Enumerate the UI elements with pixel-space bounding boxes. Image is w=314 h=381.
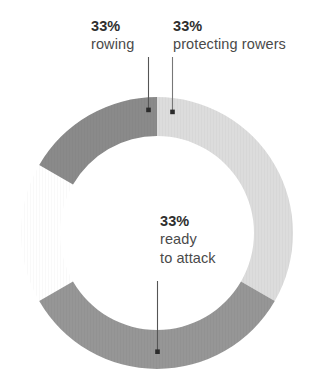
slice-label-ready-to-attack: 33% ready to attack xyxy=(160,212,216,267)
slice-label-rowing: 33% rowing xyxy=(91,17,134,54)
slice-label-ready-to-attack-line2: to attack xyxy=(160,249,216,267)
slice-label-rowing-percent: 33% xyxy=(91,17,134,35)
slice-label-protecting-rowers-text: protecting rowers xyxy=(173,35,286,53)
slice-label-ready-to-attack-percent: 33% xyxy=(160,212,216,230)
donut-chart-graphic xyxy=(0,0,314,381)
slice-label-protecting-rowers-percent: 33% xyxy=(173,17,286,35)
slice-label-rowing-text: rowing xyxy=(91,35,134,53)
donut-chart: 33% rowing 33% protecting rowers 33% rea… xyxy=(0,0,314,381)
slice-label-ready-to-attack-line1: ready xyxy=(160,230,216,248)
slice-label-protecting-rowers: 33% protecting rowers xyxy=(173,17,286,54)
